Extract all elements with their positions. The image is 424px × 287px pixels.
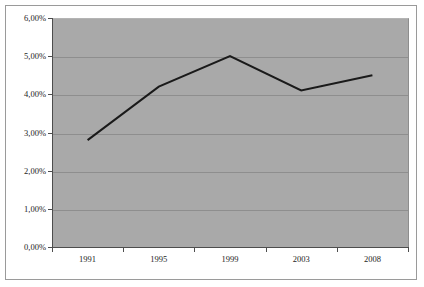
series-line-1 [88, 56, 373, 140]
y-axis-label: 6,00% [24, 14, 46, 23]
x-axis-label: 2008 [364, 255, 381, 264]
x-axis-tick [194, 248, 195, 252]
y-axis-label: 4,00% [24, 90, 46, 99]
line-series-svg [52, 18, 408, 247]
x-axis-label: 1999 [222, 255, 239, 264]
y-axis-label: 5,00% [24, 52, 46, 61]
x-axis-tick [52, 248, 53, 252]
x-axis-tick [337, 248, 338, 252]
chart-frame: 0,00%1,00%2,00%3,00%4,00%5,00%6,00% 1991… [5, 5, 417, 280]
x-axis-line [52, 247, 409, 248]
y-axis-label: 3,00% [24, 129, 46, 138]
x-axis-tick [123, 248, 124, 252]
y-axis-label: 1,00% [24, 205, 46, 214]
x-axis-label: 1991 [79, 255, 96, 264]
y-axis-label: 2,00% [24, 167, 46, 176]
x-axis-tick [408, 248, 409, 252]
x-axis-label: 2003 [293, 255, 310, 264]
x-axis-label: 1995 [150, 255, 167, 264]
chart-plot-wrapper: 0,00%1,00%2,00%3,00%4,00%5,00%6,00% 1991… [6, 6, 418, 281]
y-axis-label: 0,00% [24, 243, 46, 252]
x-axis-tick [266, 248, 267, 252]
